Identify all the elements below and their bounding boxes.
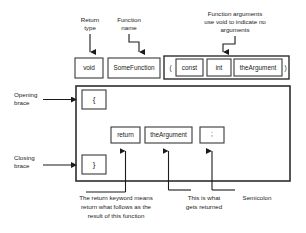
diagram-canvas: Return type Function name Function argum… — [0, 0, 306, 233]
token-return-type: void — [83, 64, 95, 71]
token-function-name: SomeFunction — [113, 64, 155, 71]
caption-return-keyword-line2: return what follows as the — [81, 203, 152, 210]
function-anatomy-diagram: Return type Function name Function argum… — [0, 0, 306, 233]
caption-return-type-line2: type — [84, 24, 96, 31]
caption-closing-brace-line2: brace — [14, 162, 30, 169]
token-int: int — [216, 64, 223, 71]
token-semicolon: ; — [211, 130, 213, 137]
token-closing-brace: } — [93, 160, 96, 169]
caption-returned-value-line2: gets returned — [186, 203, 223, 210]
caption-return-type-line1: Return — [81, 16, 100, 23]
caption-opening-brace-line1: Opening — [14, 91, 38, 98]
caption-opening-brace-line2: brace — [14, 99, 30, 106]
caption-semicolon: Semicolon — [243, 194, 272, 201]
token-argument: theArgument — [240, 64, 277, 72]
caption-function-name-line1: Function — [117, 16, 141, 23]
caption-function-name-line2: name — [121, 24, 137, 31]
caption-function-arguments-line1: Function arguments — [208, 10, 263, 17]
token-return-keyword: return — [117, 131, 134, 138]
token-returned-argument: theArgument — [150, 131, 187, 139]
token-paren-close: ) — [284, 64, 286, 72]
caption-function-arguments-line2: use void to indicate no — [204, 18, 266, 25]
caption-returned-value-line1: This is what — [188, 194, 221, 201]
token-opening-brace: { — [93, 95, 96, 104]
connector-function-name — [129, 34, 139, 52]
caption-return-keyword-line1: The return keyword means — [79, 194, 153, 201]
caption-function-arguments-line3: arguments — [220, 26, 249, 33]
caption-closing-brace-line1: Closing — [14, 154, 35, 161]
caption-return-keyword-line3: result of this function — [88, 212, 145, 219]
token-const: const — [182, 64, 197, 71]
connector-function-arguments — [223, 36, 235, 52]
